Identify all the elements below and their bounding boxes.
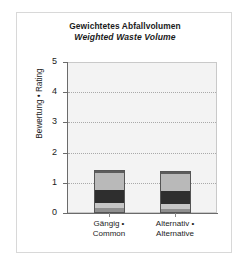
gridline: [68, 153, 216, 154]
category-label-line: Alternative: [133, 229, 217, 239]
bar-segment: [161, 191, 190, 204]
y-axis-tick-mark: [63, 183, 67, 184]
x-axis-tick-mark: [175, 213, 176, 217]
chart-title-english: Weighted Waste Volume: [17, 32, 233, 43]
y-axis-tick-label: 3: [21, 117, 57, 126]
category-label-line: Alternativ •: [133, 219, 217, 229]
x-axis-line: [67, 213, 218, 214]
y-axis-tick-mark: [63, 153, 67, 154]
plot-area: [67, 62, 217, 213]
chart-title-german: Gewichtetes Abfallvolumen: [17, 21, 233, 32]
bar: [94, 170, 125, 213]
bar-segment: [161, 209, 190, 212]
y-axis-tick-mark: [63, 122, 67, 123]
bar-segment: [95, 190, 124, 203]
y-axis-tick-mark: [63, 62, 67, 63]
bar-segment: [95, 208, 124, 212]
x-axis-tick-mark: [109, 213, 110, 217]
y-axis-tick-label: 4: [21, 87, 57, 96]
chart-frame: Gewichtetes Abfallvolumen Weighted Waste…: [16, 12, 232, 253]
gridline: [68, 183, 216, 184]
gridline: [68, 92, 216, 93]
y-axis-tick-label: 0: [21, 208, 57, 217]
y-axis-tick-label: 2: [21, 148, 57, 157]
y-axis-tick-mark: [63, 92, 67, 93]
y-axis-tick-label: 1: [21, 178, 57, 187]
x-axis-category-label: Alternativ •Alternative: [133, 219, 217, 239]
bar-segment: [95, 173, 124, 190]
y-axis-line: [67, 62, 68, 214]
bar: [160, 171, 191, 213]
gridline: [68, 122, 216, 123]
y-axis-tick-mark: [63, 213, 67, 214]
chart-title: Gewichtetes Abfallvolumen Weighted Waste…: [17, 21, 233, 43]
y-axis-tick-label: 5: [21, 57, 57, 66]
bar-segment: [161, 174, 190, 191]
